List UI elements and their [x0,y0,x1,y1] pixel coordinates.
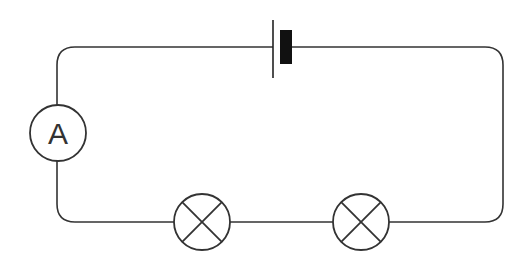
ammeter-label: A [48,117,68,150]
circuit-wire-loop [57,47,503,222]
ammeter-icon: A [30,105,86,161]
lamp-icon [333,194,389,250]
cell-negative-plate [280,30,292,64]
circuit-canvas: A [0,0,521,276]
lamp-icon [174,194,230,250]
circuit-diagram: A [0,0,521,276]
battery-cell-icon [273,20,292,78]
